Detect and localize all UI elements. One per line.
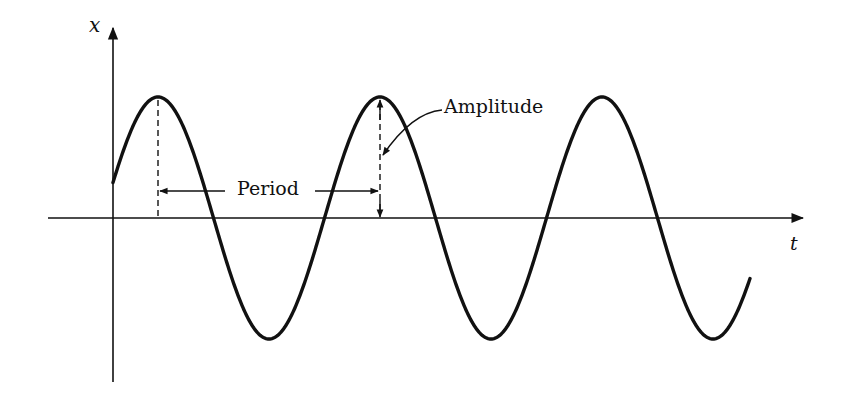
y-axis-label: x [89, 13, 100, 37]
oscillation-diagram: x t Period Amplitude [0, 0, 842, 399]
amplitude-label: Amplitude [444, 95, 543, 117]
plot-canvas [0, 0, 842, 399]
t-axis-label: t [790, 232, 798, 254]
period-label: Period [237, 177, 299, 199]
